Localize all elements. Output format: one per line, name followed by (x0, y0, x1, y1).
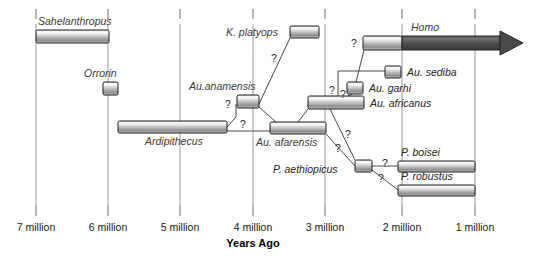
taxon-label-p-aethiopicus: P. aethiopicus (273, 163, 338, 175)
taxon-bar (385, 66, 401, 78)
axis-title: Years Ago (226, 237, 280, 249)
taxon-label-au-africanus: Au. africanus (369, 97, 432, 109)
taxon-bar (398, 185, 475, 196)
taxon-bar-segment-early (363, 36, 402, 50)
taxon-bar (270, 122, 326, 134)
uncertainty-marker: ? (378, 172, 384, 184)
taxon-bar (308, 96, 364, 109)
taxon-label-au-garhi: Au. garhi (368, 82, 412, 94)
lineage-connector (259, 107, 276, 122)
taxon-label-au-sediba: Au. sediba (406, 66, 457, 78)
taxon-label-au-anamensis: Au.anamensis (188, 80, 256, 92)
uncertainty-marker: ? (382, 157, 388, 169)
axis-tick-labels: 7 million6 million5 million4 million3 mi… (17, 221, 495, 233)
taxon-bar (347, 82, 363, 94)
axis-tick-label: 4 million (234, 221, 273, 233)
taxon-bar (118, 121, 227, 133)
taxon-label-sahelanthropus: Sahelanthropus (38, 15, 112, 27)
taxon-label-au-afarensis: Au. afarensis (255, 136, 318, 148)
uncertainty-marker: ? (225, 98, 231, 110)
timeline-arrowhead-icon (500, 31, 523, 55)
uncertainty-marker: ? (240, 118, 246, 130)
axis-tick-label: 3 million (306, 221, 345, 233)
axis-tick-label: 1 million (456, 221, 495, 233)
uncertainty-marker: ? (345, 128, 351, 140)
taxon-bar-segment-extant (402, 36, 500, 50)
lineage-connector (372, 170, 398, 190)
uncertainty-marker: ? (340, 88, 346, 100)
taxon-bar (103, 82, 118, 95)
taxon-bar (237, 95, 259, 108)
taxon-label-p-robustus: P. robustus (401, 170, 454, 182)
axis-tick-label: 2 million (383, 221, 422, 233)
lineage-connector (356, 50, 364, 82)
figure-canvas: ?????????? 7 million6 million5 million4 … (0, 0, 536, 260)
taxon-bar (290, 26, 319, 38)
taxon-bar (36, 30, 109, 43)
uncertainty-marker: ? (329, 84, 335, 96)
taxon-label-k-platyops: K. platyops (226, 26, 279, 38)
axis-tick-label: 6 million (89, 221, 128, 233)
hominin-timeline-diagram: ?????????? 7 million6 million5 million4 … (0, 0, 536, 260)
axis-tick-label: 5 million (161, 221, 200, 233)
uncertainty-marker: ? (271, 52, 277, 64)
taxon-label-p-boisei: P. boisei (401, 146, 441, 158)
uncertainty-marker: ? (351, 37, 357, 49)
axis-tick-label: 7 million (17, 221, 56, 233)
lineage-connector (259, 38, 290, 104)
taxon-label-homo: Homo (411, 21, 439, 33)
taxon-bar (355, 160, 372, 172)
taxon-label-ardipithecus: Ardipithecus (144, 135, 204, 147)
uncertainty-marker: ? (335, 142, 341, 154)
taxon-label-orrorin: Orrorin (84, 67, 117, 79)
